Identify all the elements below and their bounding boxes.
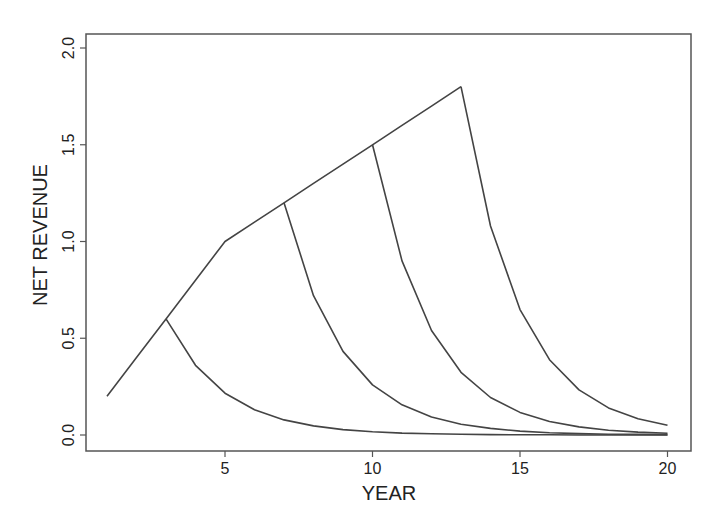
y-axis: 0.00.51.01.52.0 [60,37,86,446]
x-tick-label: 15 [511,460,529,477]
series-line-3 [373,145,668,434]
series-line-1 [166,319,668,435]
x-tick-label: 20 [659,460,677,477]
x-axis-title: YEAR [362,482,416,504]
series-line-4 [461,87,668,426]
y-tick-label: 2.0 [60,37,77,59]
x-tick-label: 5 [221,460,230,477]
y-tick-label: 1.0 [60,230,77,252]
series-lines [107,87,668,435]
series-line-0 [107,87,461,397]
y-tick-label: 0.0 [60,424,77,446]
plot-frame [86,34,691,451]
y-tick-label: 0.5 [60,327,77,349]
x-tick-label: 10 [364,460,382,477]
line-chart: 0.00.51.01.52.0 5101520 YEAR NET REVENUE [0,0,717,524]
series-line-2 [284,203,668,435]
y-tick-label: 1.5 [60,134,77,156]
y-axis-title: NET REVENUE [29,164,51,306]
x-axis: 5101520 [221,451,677,477]
